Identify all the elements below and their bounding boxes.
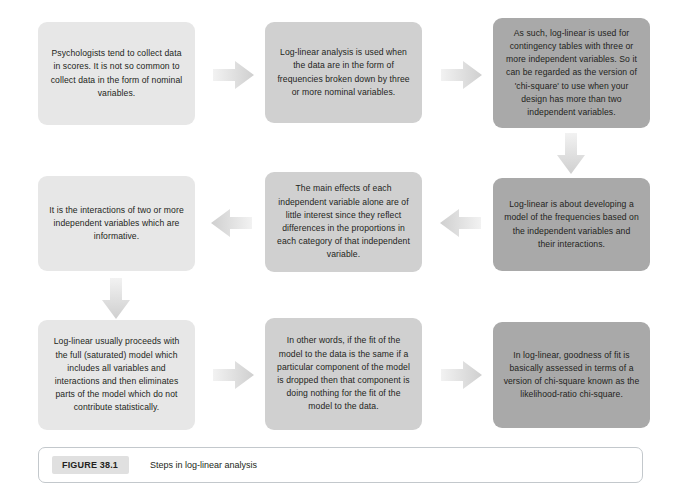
flow-node-n2: Log-linear analysis is used when the dat… <box>265 22 422 123</box>
arrow-left-n5-n4 <box>211 208 253 238</box>
flow-node-n1: Psychologists tend to collect data in sc… <box>38 22 195 125</box>
arrow-down-n4-n7 <box>101 278 131 320</box>
flow-node-n7: Log-linear usually proceeds with the ful… <box>38 320 195 430</box>
figure-container: Psychologists tend to collect data in sc… <box>0 0 679 500</box>
figure-number-badge: FIGURE 38.1 <box>52 456 129 474</box>
figure-caption-label: Steps in log-linear analysis <box>150 460 257 470</box>
arrow-right-n1-n2 <box>213 60 255 90</box>
arrow-right-n7-n8 <box>213 360 255 390</box>
arrow-down-n3-n6 <box>556 133 586 175</box>
flow-node-n8: In other words, if the fit of the model … <box>265 318 422 430</box>
flow-node-n9: In log-linear, goodness of fit is basica… <box>493 322 650 428</box>
arrow-left-n6-n5 <box>440 208 482 238</box>
flow-node-n3: As such, log-linear is used for continge… <box>493 18 650 128</box>
arrow-right-n8-n9 <box>441 360 483 390</box>
flow-node-n6: Log-linear is about developing a model o… <box>493 178 650 271</box>
flow-node-n4: It is the interactions of two or more in… <box>38 176 195 271</box>
figure-caption-bar: FIGURE 38.1 Steps in log-linear analysis <box>38 447 643 483</box>
flow-node-n5: The main effects of each independent var… <box>265 172 422 272</box>
arrow-right-n2-n3 <box>441 60 483 90</box>
